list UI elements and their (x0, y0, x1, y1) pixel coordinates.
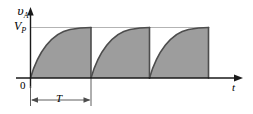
period-arrowhead-right-icon (84, 97, 91, 102)
waveform-figure: υA VP 0 t T (0, 0, 253, 114)
period-label: T (56, 93, 62, 104)
x-axis-arrowhead-icon (234, 75, 243, 82)
x-axis-label: t (232, 82, 235, 93)
peak-value-label: VP (14, 20, 26, 36)
waveform-cycle-1-fill (31, 28, 92, 79)
y-axis-label-subscript: A (24, 11, 29, 20)
origin-label: 0 (20, 80, 26, 91)
period-arrowhead-left-icon (31, 97, 38, 102)
waveform-cycle-3-fill (150, 28, 209, 79)
y-axis-arrowhead-icon (27, 7, 33, 16)
y-axis-label: υA (17, 6, 28, 20)
y-axis-label-symbol: υ (17, 5, 24, 18)
waveform-cycle-2-fill (91, 28, 150, 79)
peak-value-subscript: P (21, 26, 26, 35)
waveform-plot (0, 0, 253, 114)
